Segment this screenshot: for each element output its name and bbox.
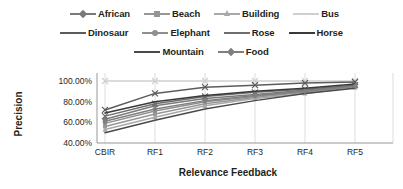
legend-swatch-elephant-icon (142, 28, 168, 38)
legend-item-beach[interactable]: Beach (144, 9, 200, 19)
x-tick-label-rf2: RF2 (197, 147, 213, 157)
y-tick-label: 60.00% (63, 117, 92, 127)
y-tick-label: 40.00% (63, 138, 92, 148)
legend-label: African (98, 9, 130, 19)
legend-swatch-african-icon (70, 9, 96, 19)
legend-row-2: DinosaurElephantRoseHorse (0, 23, 403, 42)
legend-swatch-bus-icon (293, 9, 319, 19)
legend-row-3: MountainFood (0, 42, 403, 61)
x-tick-label-rf5: RF5 (347, 147, 363, 157)
legend-item-african[interactable]: African (70, 9, 130, 19)
legend-label: Bus (321, 9, 339, 19)
legend-row-1: AfricanBeachBuildingBus (0, 4, 403, 23)
x-tick-label-rf4: RF4 (297, 147, 313, 157)
series-layer (102, 78, 358, 133)
y-tick-label: 80.00% (63, 97, 92, 107)
legend-label: Beach (172, 9, 200, 19)
legend-label: Building (242, 9, 279, 19)
legend-label: Food (246, 47, 269, 57)
legend-item-dinosaur[interactable]: Dinosaur (60, 28, 128, 38)
x-axis-title: Relevance Feedback (179, 167, 278, 178)
legend-item-food[interactable]: Food (218, 47, 269, 57)
legend-swatch-building-icon (214, 9, 240, 19)
chart-legend: AfricanBeachBuildingBus DinosaurElephant… (0, 4, 403, 61)
legend-item-building[interactable]: Building (214, 9, 279, 19)
x-tick-label-rf3: RF3 (247, 147, 263, 157)
legend-label: Elephant (170, 28, 209, 38)
legend-swatch-mountain-icon (134, 47, 160, 57)
legend-label: Dinosaur (88, 28, 128, 38)
legend-swatch-horse-icon (289, 28, 315, 38)
legend-swatch-beach-icon (144, 9, 170, 19)
plot-area: 100.00%80.00%60.00%40.00% CBIRRF1RF2RF3R… (0, 66, 403, 189)
precision-relevance-feedback-chart: AfricanBeachBuildingBus DinosaurElephant… (0, 0, 403, 189)
y-tick-labels: 100.00%80.00%60.00%40.00% (58, 76, 92, 148)
legend-label: Horse (317, 28, 343, 38)
x-tick-labels: CBIRRF1RF2RF3RF4RF5 (95, 147, 363, 157)
x-tick-label-rf1: RF1 (147, 147, 163, 157)
legend-label: Mountain (162, 47, 203, 57)
legend-item-mountain[interactable]: Mountain (134, 47, 203, 57)
legend-swatch-food-icon (218, 47, 244, 57)
legend-item-elephant[interactable]: Elephant (142, 28, 209, 38)
legend-item-horse[interactable]: Horse (289, 28, 343, 38)
legend-label: Rose (252, 28, 275, 38)
legend-swatch-rose-icon (224, 28, 250, 38)
y-axis-title: Precision (13, 91, 24, 136)
line-plot-svg: 100.00%80.00%60.00%40.00% CBIRRF1RF2RF3R… (0, 66, 403, 189)
legend-swatch-dinosaur-icon (60, 28, 86, 38)
legend-item-bus[interactable]: Bus (293, 9, 339, 19)
y-tick-label: 100.00% (58, 76, 92, 86)
axis-lines (97, 73, 393, 143)
x-tick-label-cbir: CBIR (95, 147, 115, 157)
legend-item-rose[interactable]: Rose (224, 28, 275, 38)
